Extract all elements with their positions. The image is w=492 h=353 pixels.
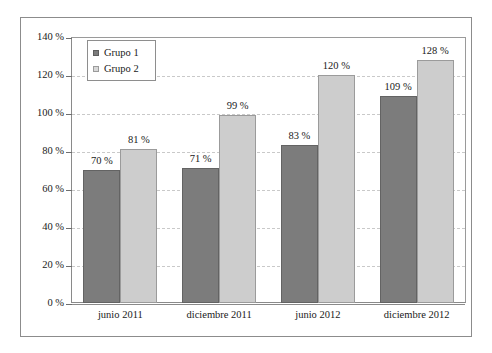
legend-swatch-icon-grupo-2 (93, 66, 99, 72)
bar-value-label: 109 % (374, 82, 423, 93)
bar-grupo-1-diciembre-2011 (182, 168, 219, 303)
y-tick-mark-20 (66, 266, 72, 267)
y-tick-label-140: 140 % (37, 32, 64, 43)
y-tick-mark-80 (66, 152, 72, 153)
gridline-0 (72, 304, 465, 305)
chart-legend: Grupo 1 Grupo 2 (87, 40, 156, 81)
legend-item-grupo-2: Grupo 2 (93, 61, 150, 77)
y-tick-mark-100 (66, 114, 72, 115)
bar-value-label: 83 % (275, 131, 324, 142)
y-tick-label-100: 100 % (37, 108, 64, 119)
y-tick-label-20: 20 % (42, 260, 64, 271)
bar-grupo-1-junio-2011 (83, 170, 120, 303)
bar-value-label: 128 % (411, 46, 460, 57)
y-tick-label-60: 60 % (42, 184, 64, 195)
legend-swatch-icon-grupo-1 (93, 50, 99, 56)
bar-value-label: 70 % (77, 156, 126, 167)
y-tick-mark-140 (66, 38, 72, 39)
bar-grupo-1-diciembre-2012 (380, 96, 417, 303)
y-axis-tick-labels: 0 %20 %40 %60 %80 %100 %120 %140 % (18, 37, 64, 303)
bar-grupo-2-diciembre-2012 (417, 60, 454, 303)
y-tick-mark-120 (66, 76, 72, 77)
bar-value-label: 81 % (114, 135, 163, 146)
bar-grupo-2-junio-2012 (318, 75, 355, 303)
y-tick-mark-40 (66, 228, 72, 229)
chart-figure: 0 %20 %40 %60 %80 %100 %120 %140 % 70 %8… (0, 0, 492, 353)
bar-value-label: 120 % (312, 61, 361, 72)
legend-item-grupo-1: Grupo 1 (93, 45, 150, 61)
y-tick-label-40: 40 % (42, 222, 64, 233)
x-tick-label-junio-2012: junio 2012 (269, 310, 368, 321)
y-tick-label-80: 80 % (42, 146, 64, 157)
y-tick-label-120: 120 % (37, 70, 64, 81)
bar-grupo-2-diciembre-2011 (219, 115, 256, 303)
y-tick-mark-0 (66, 304, 72, 305)
legend-label-grupo-2: Grupo 2 (104, 64, 139, 75)
x-tick-label-diciembre-2011: diciembre 2011 (170, 310, 269, 321)
bar-grupo-2-junio-2011 (120, 149, 157, 303)
bar-value-label: 71 % (176, 154, 225, 165)
bar-grupo-1-junio-2012 (281, 145, 318, 303)
x-tick-label-junio-2011: junio 2011 (71, 310, 170, 321)
bar-value-label: 99 % (213, 101, 262, 112)
y-tick-mark-60 (66, 190, 72, 191)
y-tick-label-0: 0 % (47, 298, 64, 309)
legend-label-grupo-1: Grupo 1 (104, 48, 139, 59)
x-tick-label-diciembre-2012: diciembre 2012 (367, 310, 466, 321)
